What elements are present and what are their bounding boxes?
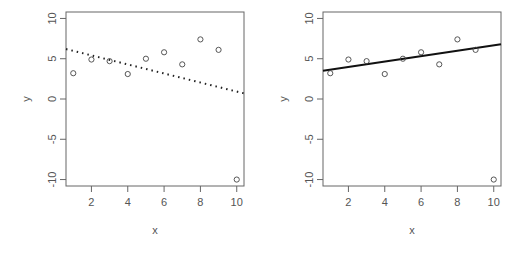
data-point xyxy=(216,47,221,52)
y-tick-label: 0 xyxy=(303,96,315,102)
x-tick-label: 2 xyxy=(345,196,351,208)
x-tick-label: 8 xyxy=(454,196,460,208)
left-scatter-plot: -10-50510246810xy xyxy=(0,0,260,255)
x-axis-label: x xyxy=(152,224,158,236)
data-point xyxy=(455,37,460,42)
y-tick-label: 10 xyxy=(303,12,315,24)
data-point xyxy=(198,37,203,42)
x-tick-label: 4 xyxy=(125,196,131,208)
y-tick-label: -5 xyxy=(46,134,58,144)
plot-frame xyxy=(323,12,501,186)
y-tick-label: 10 xyxy=(46,12,58,24)
x-tick-label: 2 xyxy=(88,196,94,208)
data-point xyxy=(418,50,423,55)
x-axis-label: x xyxy=(409,224,415,236)
y-tick-label: 0 xyxy=(46,96,58,102)
x-tick-label: 10 xyxy=(488,196,500,208)
data-point xyxy=(161,50,166,55)
data-point xyxy=(89,57,94,62)
y-tick-label: -10 xyxy=(303,172,315,188)
data-point xyxy=(234,177,239,182)
plot-frame xyxy=(66,12,244,186)
data-point xyxy=(328,71,333,76)
x-tick-label: 6 xyxy=(418,196,424,208)
data-point xyxy=(382,71,387,76)
x-tick-label: 4 xyxy=(382,196,388,208)
x-tick-label: 8 xyxy=(197,196,203,208)
data-point xyxy=(125,71,130,76)
data-point xyxy=(437,62,442,67)
data-point xyxy=(143,56,148,61)
x-tick-label: 10 xyxy=(231,196,243,208)
data-point xyxy=(346,57,351,62)
y-tick-label: 5 xyxy=(46,56,58,62)
y-tick-label: -5 xyxy=(303,134,315,144)
y-tick-label: -10 xyxy=(46,172,58,188)
right-scatter-plot: -10-50510246810xy xyxy=(257,0,517,255)
y-axis-label: y xyxy=(20,96,32,102)
y-tick-label: 5 xyxy=(303,56,315,62)
dotted-fit-line xyxy=(66,49,244,93)
data-point xyxy=(180,62,185,67)
x-tick-label: 6 xyxy=(161,196,167,208)
data-point xyxy=(71,71,76,76)
y-axis-label: y xyxy=(277,96,289,102)
data-point xyxy=(491,177,496,182)
data-point xyxy=(364,59,369,64)
